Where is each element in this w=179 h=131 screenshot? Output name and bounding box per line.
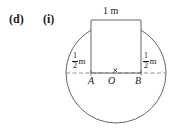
left-fraction: 1 2 bbox=[72, 52, 78, 70]
point-label-o: O bbox=[108, 75, 115, 86]
right-radius-dimension-label: 1 2 m bbox=[143, 52, 157, 70]
right-fraction-denominator: 2 bbox=[143, 62, 149, 71]
figure-container: (d) (i) 1 m 1 2 m 1 bbox=[0, 0, 179, 131]
left-fraction-denominator: 2 bbox=[72, 62, 78, 71]
top-width-dimension-label: 1 m bbox=[103, 5, 118, 16]
right-fraction: 1 2 bbox=[143, 52, 149, 70]
left-radius-dimension-label: 1 2 m bbox=[72, 52, 86, 70]
right-fraction-numerator: 1 bbox=[143, 52, 149, 61]
left-fraction-numerator: 1 bbox=[72, 52, 78, 61]
point-label-b: B bbox=[135, 75, 141, 86]
point-label-a: A bbox=[88, 75, 94, 86]
lower-semicircle-arc bbox=[66, 73, 166, 123]
left-fraction-unit: m bbox=[79, 57, 86, 66]
rectangle-outline bbox=[91, 20, 141, 73]
centre-cross-icon bbox=[113, 69, 117, 72]
right-fraction-unit: m bbox=[150, 57, 157, 66]
